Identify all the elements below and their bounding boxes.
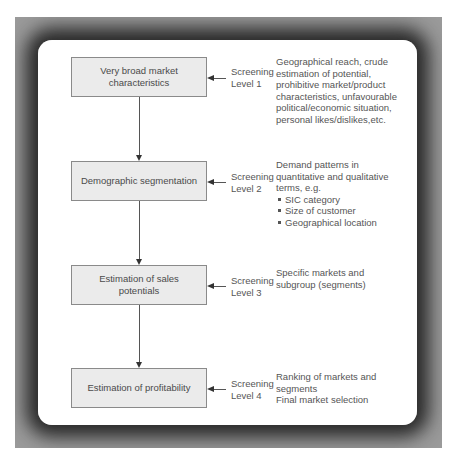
stage-3-description: Specific markets and subgroup (segments) xyxy=(276,267,416,290)
bullet-icon xyxy=(278,209,281,212)
level-label: Level 2 xyxy=(231,183,274,195)
list-item: Size of customer xyxy=(276,205,416,217)
description-line: political/economic situation, xyxy=(276,102,416,114)
screening-label: Screening xyxy=(231,378,274,390)
stage-box-3-label: Estimation of sales potentials xyxy=(78,273,200,297)
description-line: terms, e.g. xyxy=(276,182,416,194)
arrow-line-level-3 xyxy=(213,286,226,287)
bullet-icon xyxy=(278,221,281,224)
criteria-list: SIC category Size of customer Geographic… xyxy=(276,194,416,229)
description-line: characteristics, unfavourable xyxy=(276,91,416,103)
stage-box-4: Estimation of profitability xyxy=(71,368,207,408)
screening-level-3: Screening Level 3 xyxy=(231,275,274,299)
level-label: Level 4 xyxy=(231,390,274,402)
screening-level-2: Screening Level 2 xyxy=(231,171,274,195)
screening-level-1: Screening Level 1 xyxy=(231,66,274,90)
stage-box-2-label: Demographic segmentation xyxy=(81,175,197,187)
stage-box-2: Demographic segmentation xyxy=(71,161,207,201)
connector-3-4 xyxy=(139,305,140,362)
arrow-left-icon xyxy=(207,75,214,81)
connector-2-3 xyxy=(139,201,140,259)
description-line: subgroup (segments) xyxy=(276,279,416,291)
description-line: segments xyxy=(276,383,416,395)
description-line: prohibitive market/product xyxy=(276,79,416,91)
description-line: Geographical reach, crude xyxy=(276,56,416,68)
screening-label: Screening xyxy=(231,275,274,287)
description-line: Demand patterns in xyxy=(276,159,416,171)
screening-level-4: Screening Level 4 xyxy=(231,378,274,402)
arrow-left-icon xyxy=(207,283,214,289)
arrow-left-icon xyxy=(207,179,214,185)
arrow-left-icon xyxy=(207,386,214,392)
stage-box-4-label: Estimation of profitability xyxy=(88,382,191,394)
stage-1-description: Geographical reach, crude estimation of … xyxy=(276,56,416,125)
description-line: Specific markets and xyxy=(276,267,416,279)
description-line: quantitative and qualitative xyxy=(276,171,416,183)
stage-4-description: Ranking of markets and segments Final ma… xyxy=(276,371,416,406)
stage-box-3: Estimation of sales potentials xyxy=(71,265,207,305)
description-line: Ranking of markets and xyxy=(276,371,416,383)
description-line: estimation of potential, xyxy=(276,68,416,80)
list-item: Geographical location xyxy=(276,217,416,229)
description-line: personal likes/dislikes,etc. xyxy=(276,114,416,126)
bullet-icon xyxy=(278,198,281,201)
stage-2-description: Demand patterns in quantitative and qual… xyxy=(276,159,416,228)
level-label: Level 1 xyxy=(231,78,274,90)
stage-box-1: Very broad market characteristics xyxy=(71,57,207,97)
arrow-line-level-2 xyxy=(213,182,226,183)
list-item-text: SIC category xyxy=(285,194,340,205)
description-line: Final market selection xyxy=(276,394,416,406)
arrow-line-level-4 xyxy=(213,389,226,390)
connector-1-2 xyxy=(139,97,140,155)
stage-box-1-label: Very broad market characteristics xyxy=(94,65,184,89)
list-item-text: Geographical location xyxy=(285,217,377,228)
arrow-line-level-1 xyxy=(213,78,226,79)
level-label: Level 3 xyxy=(231,287,274,299)
list-item: SIC category xyxy=(276,194,416,206)
screening-label: Screening xyxy=(231,66,274,78)
list-item-text: Size of customer xyxy=(285,205,356,216)
screening-label: Screening xyxy=(231,171,274,183)
